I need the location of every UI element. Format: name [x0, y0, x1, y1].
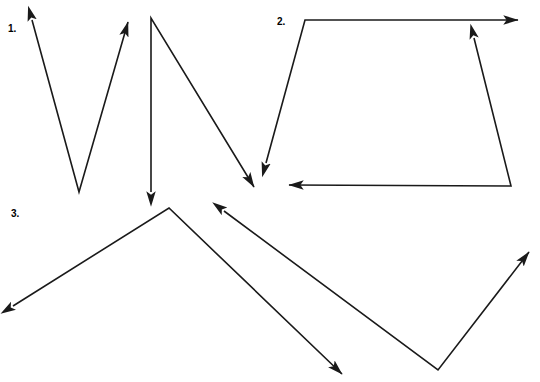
figure-label-1: 1. — [8, 24, 16, 34]
figure-3-group — [13, 208, 529, 374]
figure-1-group — [32, 18, 254, 192]
figures-svg — [0, 0, 540, 382]
figure-3-valley-polyline — [224, 211, 529, 370]
figure-3-peak-polyline — [13, 208, 342, 374]
figure-1-v-shape-left — [32, 20, 128, 192]
figure-label-3: 3. — [11, 209, 19, 219]
figure-2-lower-right-polyline — [289, 38, 511, 186]
figure-1-lambda-shape-right — [151, 18, 254, 192]
figure-2-upper-left-polyline — [266, 20, 518, 163]
figure-label-2: 2. — [277, 17, 285, 27]
figure-2-group — [266, 20, 518, 186]
worksheet-canvas: 1. 2. 3. — [0, 0, 540, 382]
